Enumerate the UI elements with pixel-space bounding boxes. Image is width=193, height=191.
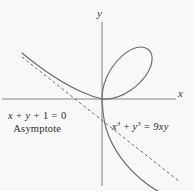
y-axis-label: y — [97, 8, 102, 20]
asymptote-annotation: x + y + 1 = 0 Asymptote — [8, 110, 67, 134]
curve-eq-plus: + — [121, 121, 133, 132]
asymptote-eq-plus1: + — [13, 110, 25, 121]
asymptote-eq-zero: 0 — [61, 110, 67, 121]
folium-of-descartes-figure: y x x + y + 1 = 0 Asymptote x3 + y3 = 9x… — [0, 0, 193, 191]
curve-equation-annotation: x3 + y3 = 9xy — [112, 121, 169, 132]
x-axis-label: x — [178, 88, 183, 100]
plot-canvas — [0, 0, 193, 191]
asymptote-eq-plus2: + — [31, 110, 43, 121]
asymptote-eq-equals: = — [49, 110, 61, 121]
curve-eq-rhs: 9xy — [153, 121, 168, 132]
asymptote-equation: x + y + 1 = 0 — [8, 110, 67, 121]
curve-eq-equals: = — [141, 121, 153, 132]
asymptote-word-label: Asymptote — [8, 123, 67, 134]
